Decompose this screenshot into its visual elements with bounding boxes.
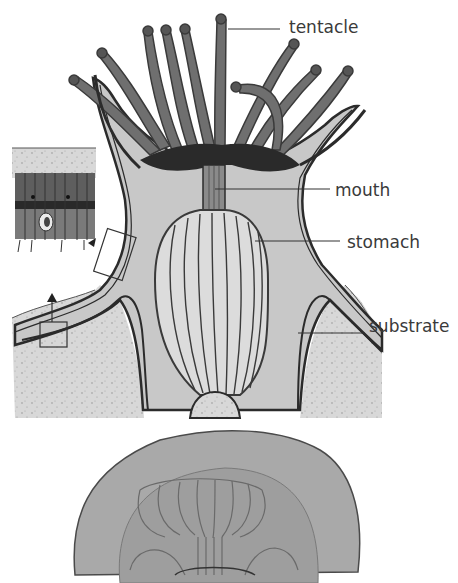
polyp-diagram: [0, 0, 458, 583]
substrate-label: substrate: [369, 318, 449, 335]
tissue-inset: [12, 148, 96, 252]
tentacle-label: tentacle: [289, 19, 359, 36]
mouth-label: mouth: [335, 182, 390, 199]
lower-figure: [74, 431, 360, 583]
pharynx: [203, 165, 225, 210]
stomach-label: stomach: [347, 234, 420, 251]
